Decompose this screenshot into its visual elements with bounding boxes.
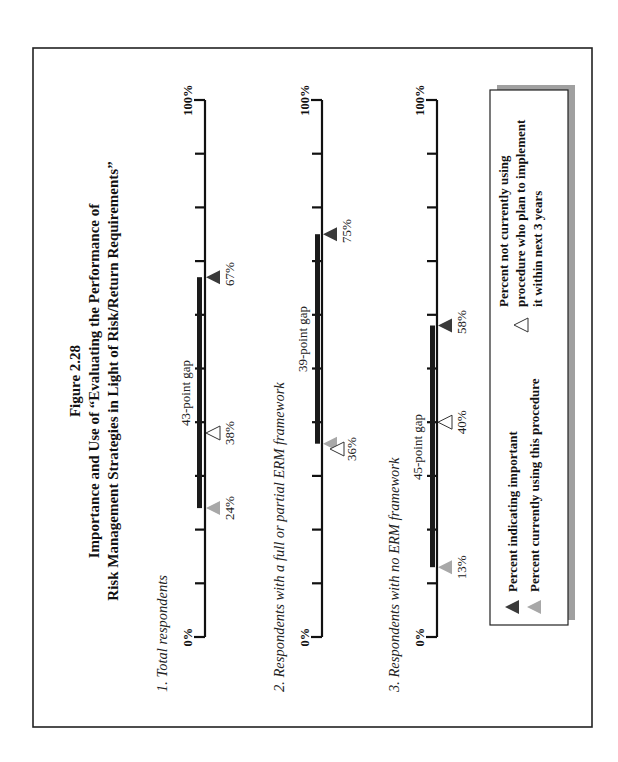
axis-min-label: 0%	[181, 628, 195, 647]
row-total-respondents: 1. Total respondents 0% 100% 43-point	[154, 84, 237, 692]
using-value: 13%	[454, 555, 469, 579]
axis-min-label: 0%	[298, 628, 312, 647]
row-no-erm: 3. Respondents with no ERM framework 0% …	[386, 84, 469, 693]
plan-marker	[438, 415, 452, 429]
row-label: 3. Respondents with no ERM framework	[386, 457, 402, 693]
gap-bar	[197, 277, 202, 508]
gap-bar	[430, 326, 435, 568]
important-marker	[206, 270, 220, 284]
important-marker	[438, 319, 452, 333]
title-line-2: Risk Management Strategies in Light of R…	[105, 161, 121, 600]
legend-plan-line-3: it within next 3 years	[530, 191, 545, 307]
using-value: 24%	[222, 496, 237, 520]
gap-label: 43-point gap	[178, 360, 193, 426]
plan-value: 40%	[454, 410, 469, 434]
legend: Percent indicating important Percent cur…	[490, 85, 575, 625]
legend-important-label: Percent indicating important	[505, 431, 520, 592]
row-full-partial-erm: 2. Respondents with a full or partial ER…	[271, 84, 359, 692]
figure-canvas: Figure 2.28 Importance and Use of “Evalu…	[0, 0, 618, 762]
axis-min-label: 0%	[413, 628, 427, 647]
legend-plan-line-1: Percent not currently using	[496, 155, 511, 307]
legend-plan-line-2: procedure who plan to implement	[513, 119, 528, 307]
important-marker	[323, 227, 337, 241]
plan-marker	[206, 426, 220, 440]
row-label: 2. Respondents with a full or partial ER…	[271, 382, 287, 692]
row-label: 1. Total respondents	[154, 575, 170, 692]
using-marker	[438, 560, 452, 574]
gap-bar	[315, 234, 320, 444]
plan-value: 38%	[222, 421, 237, 445]
axis-max-label: 100%	[413, 84, 427, 115]
using-marker	[206, 501, 220, 515]
important-value: 58%	[454, 310, 469, 334]
axis-max-label: 100%	[181, 84, 195, 115]
axis-max-label: 100%	[298, 84, 312, 115]
title-line-1: Importance and Use of “Evaluating the Pe…	[86, 203, 102, 559]
important-value: 67%	[222, 262, 237, 286]
rotated-figure: Figure 2.28 Importance and Use of “Evalu…	[67, 84, 575, 693]
legend-using-label: Percent currently using this procedure	[527, 378, 542, 592]
plan-value: 36%	[344, 437, 359, 461]
important-value: 75%	[339, 219, 354, 243]
figure-number: Figure 2.28	[67, 345, 83, 417]
figure-title: Figure 2.28 Importance and Use of “Evalu…	[67, 161, 121, 600]
gap-label: 45-point gap	[410, 414, 425, 480]
gap-label: 39-point gap	[295, 306, 310, 372]
